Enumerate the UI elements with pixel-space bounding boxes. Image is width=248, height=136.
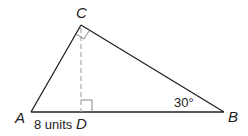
segment-label-ad: 8 units — [34, 117, 73, 132]
vertex-label-b: B — [228, 108, 238, 125]
right-angle-mark-d — [81, 100, 92, 112]
triangle-diagram: C A D B 8 units 30° — [0, 0, 248, 136]
vertex-label-d: D — [76, 115, 87, 132]
vertex-label-a: A — [14, 109, 25, 126]
side-cb — [81, 25, 224, 112]
vertex-label-c: C — [76, 4, 87, 21]
side-ac — [31, 25, 81, 112]
right-angle-mark-c — [76, 31, 89, 39]
angle-label-b: 30° — [174, 95, 194, 110]
